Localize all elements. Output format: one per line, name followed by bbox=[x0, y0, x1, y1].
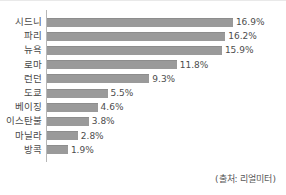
bar-row: 시드니 16.9% bbox=[0, 15, 286, 29]
bar bbox=[47, 46, 222, 55]
category-label: 도쿄 bbox=[0, 86, 42, 100]
category-label: 방콕 bbox=[0, 143, 42, 157]
category-label: 시드니 bbox=[0, 15, 42, 29]
bar-row: 런던 9.3% bbox=[0, 72, 286, 86]
bar bbox=[47, 18, 233, 27]
bar-value-label: 3.8% bbox=[92, 114, 115, 128]
category-label: 마닐라 bbox=[0, 129, 42, 143]
bar bbox=[47, 74, 149, 83]
source-note: (출처: 리얼미터) bbox=[215, 172, 276, 185]
bar-row: 이스탄불 3.8% bbox=[0, 114, 286, 128]
bar-value-label: 5.5% bbox=[111, 86, 134, 100]
bar bbox=[47, 60, 177, 69]
bar-value-label: 1.9% bbox=[71, 143, 94, 157]
bar-value-label: 15.9% bbox=[225, 43, 254, 57]
category-label: 파리 bbox=[0, 29, 42, 43]
bar bbox=[47, 117, 89, 126]
bar-value-label: 16.9% bbox=[236, 15, 265, 29]
category-label: 이스탄불 bbox=[0, 114, 42, 128]
bar-value-label: 11.8% bbox=[180, 58, 209, 72]
bar-row: 로마 11.8% bbox=[0, 58, 286, 72]
category-label: 뉴욕 bbox=[0, 43, 42, 57]
bar bbox=[47, 145, 68, 154]
bar bbox=[47, 103, 98, 112]
bar bbox=[47, 131, 78, 140]
bar-row: 방콕 1.9% bbox=[0, 143, 286, 157]
bar-row: 마닐라 2.8% bbox=[0, 129, 286, 143]
category-label: 로마 bbox=[0, 58, 42, 72]
bar-row: 베이징 4.6% bbox=[0, 100, 286, 114]
bar-row: 파리 16.2% bbox=[0, 29, 286, 43]
bar-value-label: 16.2% bbox=[228, 29, 257, 43]
bar-value-label: 4.6% bbox=[101, 100, 124, 114]
bar-chart: 시드니 16.9% 파리 16.2% 뉴욕 15.9% 로마 11.8% 런던 … bbox=[0, 0, 286, 195]
bar-value-label: 2.8% bbox=[81, 129, 104, 143]
bar bbox=[47, 32, 225, 41]
bar-row: 뉴욕 15.9% bbox=[0, 43, 286, 57]
bar-row: 도쿄 5.5% bbox=[0, 86, 286, 100]
bar bbox=[47, 89, 108, 98]
plot-area: 시드니 16.9% 파리 16.2% 뉴욕 15.9% 로마 11.8% 런던 … bbox=[0, 0, 286, 165]
category-label: 베이징 bbox=[0, 100, 42, 114]
category-label: 런던 bbox=[0, 72, 42, 86]
bar-value-label: 9.3% bbox=[152, 72, 175, 86]
